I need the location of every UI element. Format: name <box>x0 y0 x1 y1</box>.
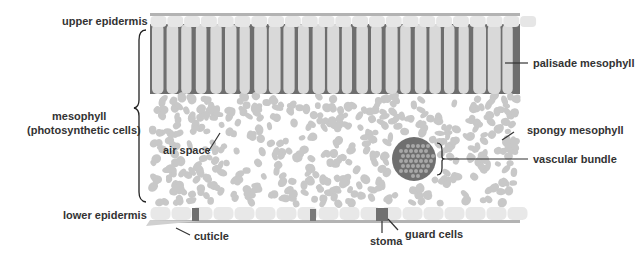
upper-cuticle <box>150 13 520 16</box>
label-lower-epidermis: lower epidermis <box>63 209 147 222</box>
label-spongy-mesophyll: spongy mesophyll <box>527 124 624 137</box>
leader-cuticle <box>176 228 190 235</box>
label-upper-epidermis: upper epidermis <box>62 15 148 28</box>
guard-cell-right <box>376 208 388 221</box>
label-air-space: air space <box>163 144 211 157</box>
mesophyll-brace <box>134 30 146 202</box>
label-mesophyll: mesophyll <box>52 110 106 123</box>
label-palisade-mesophyll: palisade mesophyll <box>533 57 634 70</box>
guard-cell-left <box>192 208 199 221</box>
label-mesophyll-sub: (photosynthetic cells) <box>27 124 141 137</box>
lower-cuticle <box>150 220 520 223</box>
label-stoma: stoma <box>370 235 402 248</box>
label-cuticle: cuticle <box>194 230 229 243</box>
guard-cell-mid <box>310 209 316 221</box>
label-guard-cells: guard cells <box>405 228 463 241</box>
label-vascular-bundle: vascular bundle <box>533 153 617 166</box>
